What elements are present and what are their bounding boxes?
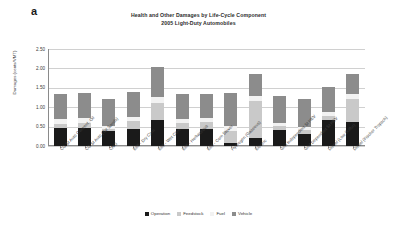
x-label-slot: Hydrogen (Gaseous) [219, 148, 243, 206]
y-tick-label: 1.50 [19, 85, 45, 90]
x-label-slot: E85 - Herbaceous [170, 148, 194, 206]
bar-segment-vehicle [78, 93, 91, 118]
x-label-slot: E85 - Corn Stover [194, 148, 218, 206]
stacked-bar[interactable] [224, 93, 237, 147]
legend-item[interactable]: Fuel [210, 211, 225, 216]
legend-item[interactable]: Operation [145, 211, 170, 216]
chart-title-block: Health and Other Damages by Life-Cycle C… [0, 11, 397, 27]
legend-swatch-icon [210, 212, 214, 216]
x-label-slot: Grid Dependent SI HEV [292, 148, 316, 206]
bar-segment-vehicle [224, 93, 237, 126]
stacked-bar[interactable] [151, 67, 164, 147]
x-label-slot: CG SI Auto (Tar Sands) [72, 148, 96, 206]
x-label-slot: CNG [97, 148, 121, 206]
bar-segment-vehicle [273, 96, 286, 123]
y-tick-label: 0.50 [19, 124, 45, 129]
bar-segment-vehicle [322, 87, 335, 112]
x-label-slot: Electric [243, 148, 267, 206]
plot-area [48, 49, 365, 146]
y-tick-label: 2.50 [19, 47, 45, 52]
bar-slot [121, 49, 145, 146]
x-label-slot: E85 - Wet Corn [146, 148, 170, 206]
legend-swatch-icon [232, 212, 236, 216]
x-label-slot: E85 - Dry Corn [121, 148, 145, 206]
stacked-bar[interactable] [176, 94, 189, 146]
legend-item[interactable]: Vehicle [232, 211, 252, 216]
stacked-bar[interactable] [127, 92, 140, 146]
chart-figure: a Health and Other Damages by Life-Cycle… [0, 0, 397, 237]
stacked-bar[interactable] [54, 94, 67, 146]
bar-slot [268, 49, 292, 146]
bar-segment-vehicle [127, 92, 140, 117]
legend-label: Fuel [216, 211, 225, 216]
bar-segment-vehicle [151, 67, 164, 98]
bar-segment-feedstock [151, 103, 164, 120]
bar-slot [48, 49, 72, 146]
chart-title: Health and Other Damages by Life-Cycle C… [0, 11, 397, 19]
chart-subtitle: 2005 Light-Duty Automobiles [0, 19, 397, 27]
legend-label: Vehicle [238, 211, 252, 216]
x-axis-tick-labels: CG SI Auto Convent. OilCG SI Auto (Tar S… [48, 148, 365, 206]
y-axis-title: Damages (cents/VMT) [12, 38, 17, 108]
legend-swatch-icon [145, 212, 149, 216]
bar-segment-vehicle [176, 94, 189, 119]
x-label-slot: Grid Independent SI HEV [268, 148, 292, 206]
legend-item[interactable]: Feedstock [177, 211, 203, 216]
y-tick-label: 2.00 [19, 66, 45, 71]
bar-group [48, 49, 365, 146]
x-label-slot: CG SI Auto Convent. Oil [48, 148, 72, 206]
stacked-bar[interactable] [249, 74, 262, 146]
stacked-bar[interactable] [346, 74, 359, 146]
bar-segment-vehicle [249, 74, 262, 96]
legend-label: Operation [151, 211, 170, 216]
stacked-bar[interactable] [200, 94, 213, 146]
legend-label: Feedstock [183, 211, 203, 216]
chart-legend: OperationFeedstockFuelVehicle [0, 211, 397, 216]
stacked-bar[interactable] [273, 96, 286, 146]
x-label-slot: Diesel (Low Sulfur) [316, 148, 340, 206]
bar-segment-feedstock [346, 99, 359, 121]
x-label-slot: Diesel (Fischer Tropsch) [341, 148, 365, 206]
bar-segment-vehicle [346, 74, 359, 94]
legend-swatch-icon [177, 212, 181, 216]
y-tick-label: 0.00 [19, 144, 45, 149]
bar-segment-vehicle [54, 94, 67, 119]
bar-segment-feedstock [127, 121, 140, 129]
y-tick-label: 1.00 [19, 105, 45, 110]
bar-segment-vehicle [200, 94, 213, 119]
